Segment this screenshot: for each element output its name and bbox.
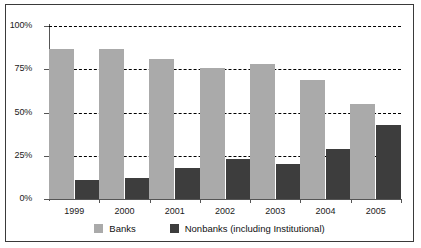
legend-label-banks: Banks (109, 223, 135, 234)
bar-nonbanks-2001 (175, 168, 200, 199)
y-tick-mark-0 (44, 199, 49, 200)
bar-banks-2002 (200, 68, 225, 199)
bar-nonbanks-2005 (376, 125, 401, 199)
x-tick-label-1999: 1999 (52, 206, 96, 216)
bar-banks-2001 (149, 59, 174, 199)
x-tick-mark-2001 (200, 199, 201, 203)
legend-label-nonbanks: Nonbanks (including Institutional) (185, 223, 325, 234)
x-tick-label-2003: 2003 (253, 206, 297, 216)
x-tick-label-2004: 2004 (304, 206, 348, 216)
bar-nonbanks-2000 (125, 178, 150, 199)
bar-banks-1999 (49, 49, 74, 200)
x-tick-mark-2000 (150, 199, 151, 203)
x-tick-mark-1999 (99, 199, 100, 203)
x-tick-mark-2005 (401, 199, 402, 203)
bar-banks-2004 (300, 80, 325, 199)
bar-nonbanks-2003 (276, 164, 301, 199)
legend-swatch-banks (94, 224, 103, 233)
legend-item-nonbanks: Nonbanks (including Institutional) (170, 223, 325, 234)
x-tick-mark-2004 (351, 199, 352, 203)
legend-item-banks: Banks (94, 223, 135, 234)
x-tick-label-2002: 2002 (203, 206, 247, 216)
legend-swatch-nonbanks (170, 224, 179, 233)
chart-figure: 0%25%50%75%100% 199920002001200220032004… (5, 4, 414, 242)
y-tick-label-50: 50% (15, 107, 32, 117)
bar-nonbanks-1999 (75, 180, 100, 199)
bar-nonbanks-2002 (226, 159, 251, 199)
y-tick-label-0: 0% (19, 193, 32, 203)
y-tick-label-25: 25% (15, 150, 32, 160)
x-tick-label-2000: 2000 (102, 206, 146, 216)
bar-banks-2005 (350, 104, 375, 199)
x-tick-label-2001: 2001 (153, 206, 197, 216)
chart-legend: Banks Nonbanks (including Institutional) (6, 223, 413, 234)
plot-area (49, 26, 401, 199)
bar-banks-2000 (99, 49, 124, 200)
y-tick-label-100: 100% (10, 20, 32, 30)
gridline-100 (49, 26, 401, 27)
x-tick-label-2005: 2005 (354, 206, 398, 216)
x-axis-line (49, 199, 402, 200)
x-tick-mark-2003 (300, 199, 301, 203)
y-tick-label-75: 75% (15, 63, 32, 73)
bar-nonbanks-2004 (326, 149, 351, 199)
bar-banks-2003 (250, 64, 275, 199)
x-tick-mark-2002 (250, 199, 251, 203)
